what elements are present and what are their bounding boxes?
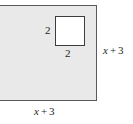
outer-rectangle-right-side-label: x+3 (103, 45, 124, 56)
geometry-figure: 2 2 x+3 x+3 (0, 0, 133, 124)
right-label-operator: + (110, 44, 116, 56)
inner-square-left-side-label: 2 (45, 25, 51, 36)
inner-square-bottom-side-label: 2 (65, 48, 71, 59)
outer-rectangle-bottom-side-label: x+3 (34, 106, 55, 117)
inner-white-square-cutout (55, 16, 85, 46)
bottom-label-operator: + (41, 105, 47, 117)
bottom-label-variable: x (34, 105, 39, 117)
right-label-variable: x (103, 44, 108, 56)
right-label-constant: 3 (118, 44, 124, 56)
bottom-label-constant: 3 (49, 105, 55, 117)
